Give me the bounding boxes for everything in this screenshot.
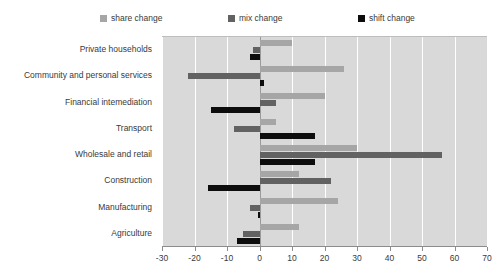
bar-shift	[260, 133, 315, 139]
x-tick-label: -20	[180, 253, 210, 263]
bar-mix	[243, 231, 259, 237]
bar-group	[162, 221, 487, 247]
x-tick-label: 20	[310, 253, 340, 263]
bar-share	[260, 119, 276, 125]
bar-share	[260, 145, 358, 151]
legend-label-shift-change: shift change	[369, 14, 415, 23]
bar-mix	[260, 178, 332, 184]
x-tick-70	[487, 247, 488, 251]
legend-swatch-shift-change	[358, 15, 365, 22]
bar-group	[162, 116, 487, 142]
bar-mix	[234, 126, 260, 132]
bar-mix	[260, 100, 276, 106]
x-tick-label: -30	[147, 253, 177, 263]
plot-area	[162, 36, 487, 247]
bar-shift	[260, 80, 265, 86]
bar-shift	[237, 238, 260, 244]
x-axis	[162, 246, 487, 253]
legend-item-shift-change: shift change	[358, 14, 415, 23]
bar-share	[260, 40, 293, 46]
category-label: Private households	[80, 44, 152, 54]
legend-swatch-share-change	[100, 15, 107, 22]
x-tick-label: 70	[472, 253, 502, 263]
bar-group	[162, 90, 487, 116]
category-label: Financial intemediation	[65, 97, 152, 107]
x-tick-20	[325, 247, 326, 251]
bar-shift	[208, 185, 260, 191]
bar-group	[162, 142, 487, 168]
category-label: Construction	[104, 175, 152, 185]
bar-share	[260, 198, 338, 204]
bar-group	[162, 195, 487, 221]
bar-share	[260, 171, 299, 177]
x-tick-label: 10	[277, 253, 307, 263]
x-tick-50	[422, 247, 423, 251]
bar-share	[260, 224, 299, 230]
x-tick-label: 0	[245, 253, 275, 263]
x-tick-label: -10	[212, 253, 242, 263]
category-axis-labels: Private householdsCommunity and personal…	[0, 36, 158, 246]
legend-item-share-change: share change	[100, 14, 163, 23]
bar-mix	[250, 205, 260, 211]
x-tick-10	[292, 247, 293, 251]
x-tick--20	[195, 247, 196, 251]
legend-swatch-mix-change	[228, 15, 235, 22]
bar-mix	[260, 152, 442, 158]
x-tick-label: 50	[407, 253, 437, 263]
x-tick--10	[227, 247, 228, 251]
category-label: Wholesale and retail	[75, 149, 152, 159]
x-tick--30	[162, 247, 163, 251]
bar-share	[260, 93, 325, 99]
bar-shift	[250, 54, 260, 60]
bar-mix	[188, 73, 260, 79]
bar-group	[162, 168, 487, 194]
x-tick-label: 40	[375, 253, 405, 263]
x-axis-tick-labels: -30-20-10010203040506070	[0, 253, 504, 267]
legend-label-mix-change: mix change	[239, 14, 282, 23]
x-tick-label: 60	[440, 253, 470, 263]
bar-shift	[258, 212, 260, 218]
x-tick-60	[455, 247, 456, 251]
category-label: Manufacturing	[98, 202, 152, 212]
category-label: Agriculture	[111, 228, 152, 238]
gridline-70	[487, 37, 488, 247]
chart-legend: share change mix change shift change	[0, 14, 504, 28]
category-label: Transport	[116, 123, 152, 133]
legend-item-mix-change: mix change	[228, 14, 282, 23]
bar-mix	[253, 47, 260, 53]
category-label: Community and personal services	[24, 70, 152, 80]
bar-chart: share change mix change shift change Pri…	[0, 0, 504, 279]
x-tick-0	[260, 247, 261, 251]
bar-shift	[211, 107, 260, 113]
x-tick-label: 30	[342, 253, 372, 263]
legend-label-share-change: share change	[111, 14, 163, 23]
x-tick-30	[357, 247, 358, 251]
bar-shift	[260, 159, 315, 165]
bar-share	[260, 66, 345, 72]
x-tick-40	[390, 247, 391, 251]
bar-group	[162, 37, 487, 63]
bar-group	[162, 63, 487, 89]
